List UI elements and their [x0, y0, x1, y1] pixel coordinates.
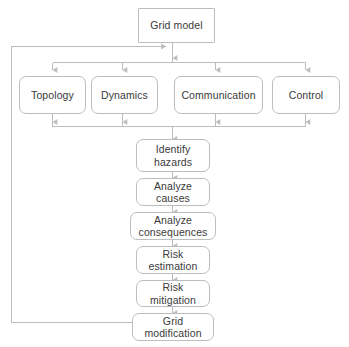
- node-risk-mitigation[interactable]: Risk mitigation: [136, 280, 210, 307]
- node-dynamics-label: Dynamics: [99, 89, 150, 102]
- node-risk-mitigation-label: Risk mitigation: [148, 281, 198, 306]
- node-analyze-causes[interactable]: Analyze causes: [136, 178, 210, 206]
- node-analyze-causes-label: Analyze causes: [152, 180, 194, 205]
- flowchart-diagram: Grid model Topology Dynamics Communicati…: [0, 0, 349, 347]
- node-grid-modification[interactable]: Grid modification: [132, 313, 214, 341]
- node-control-label: Control: [287, 89, 326, 102]
- node-identify-hazards-label: Identify hazards: [152, 143, 194, 168]
- node-analyze-consequences-label: Analyze consequences: [137, 214, 210, 239]
- node-dynamics[interactable]: Dynamics: [91, 76, 158, 114]
- node-identify-hazards[interactable]: Identify hazards: [136, 139, 210, 172]
- node-risk-estimation[interactable]: Risk estimation: [136, 246, 210, 274]
- node-topology[interactable]: Topology: [19, 76, 86, 114]
- node-topology-label: Topology: [29, 89, 76, 102]
- node-grid-model-label: Grid model: [148, 19, 204, 32]
- node-grid-model[interactable]: Grid model: [138, 8, 215, 43]
- node-risk-estimation-label: Risk estimation: [147, 248, 200, 273]
- node-communication[interactable]: Communication: [174, 76, 263, 114]
- node-control[interactable]: Control: [272, 76, 340, 114]
- node-communication-label: Communication: [179, 89, 257, 102]
- node-analyze-consequences[interactable]: Analyze consequences: [130, 212, 216, 240]
- node-grid-modification-label: Grid modification: [142, 315, 203, 340]
